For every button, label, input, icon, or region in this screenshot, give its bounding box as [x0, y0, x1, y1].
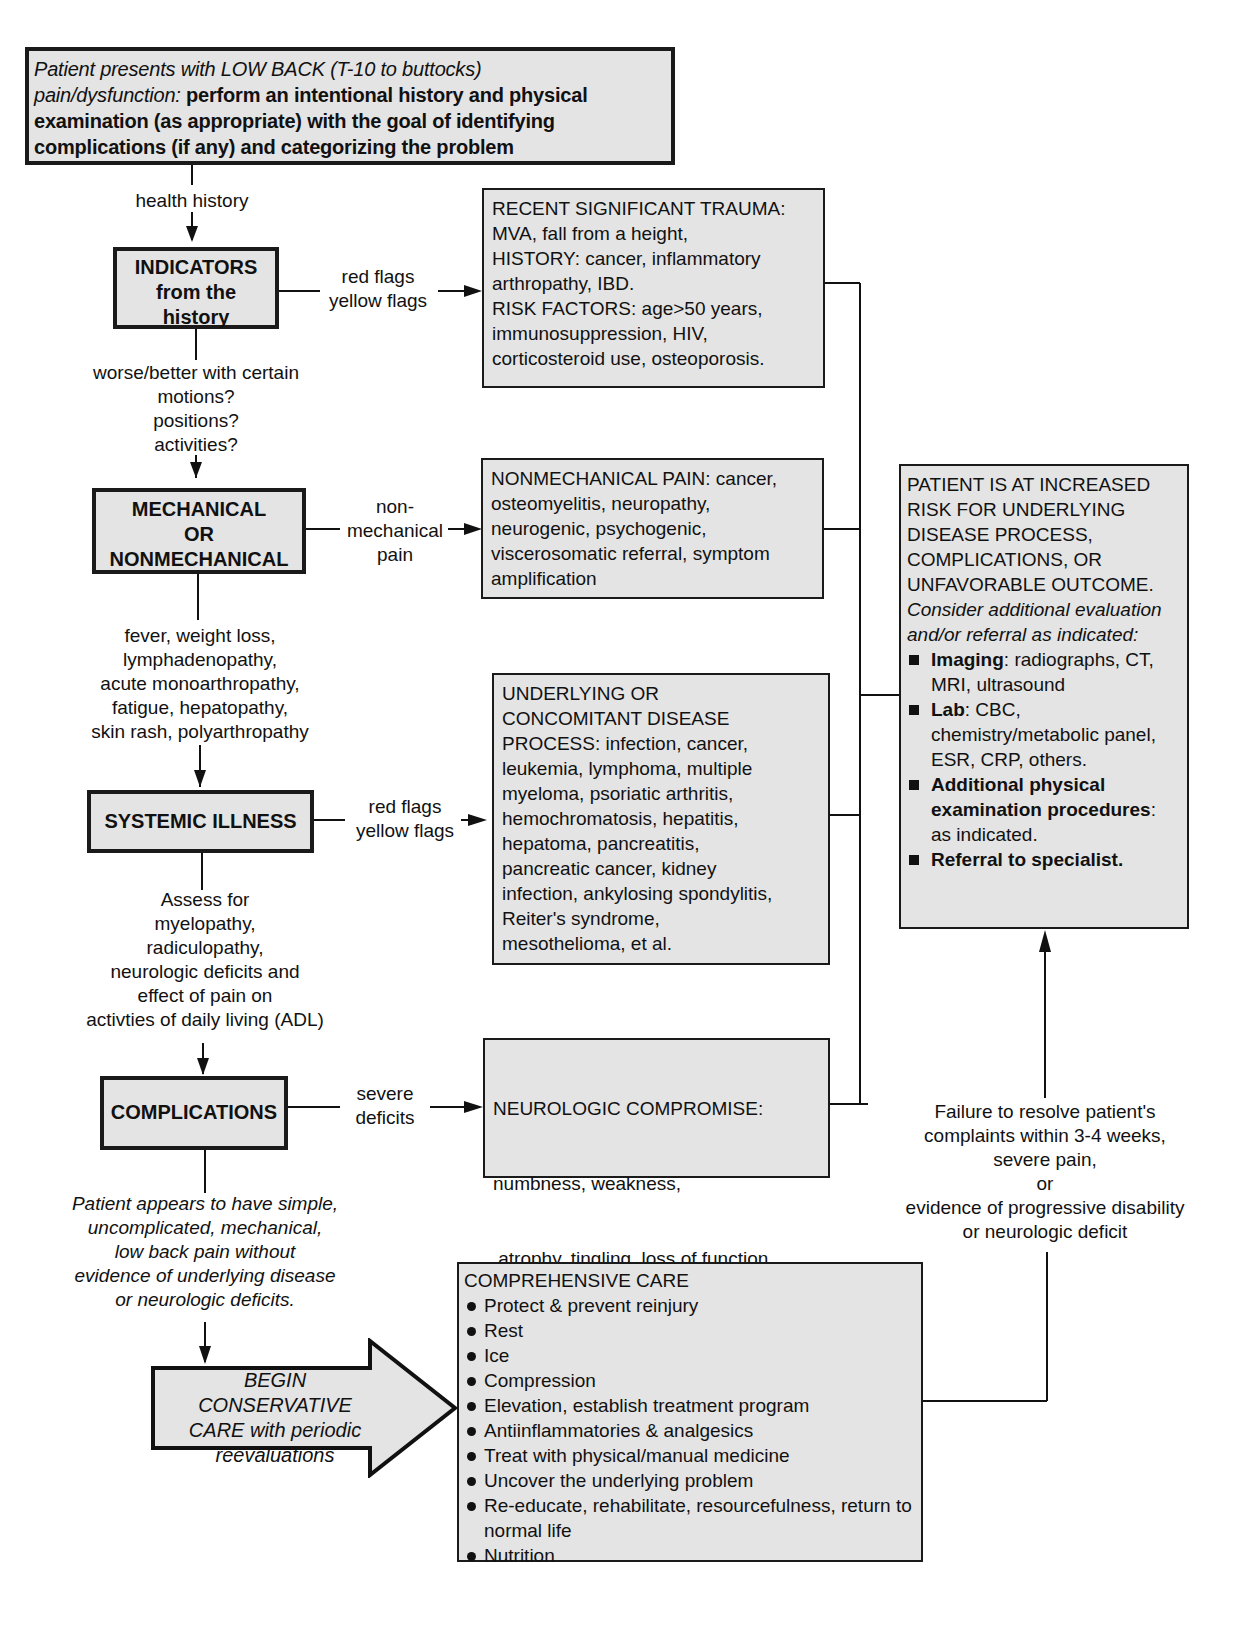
failure-line: or [880, 1172, 1210, 1196]
neuro-line: NEUROLOGIC COMPROMISE: [493, 1096, 820, 1121]
edge-label-line: red flags [316, 265, 440, 289]
risk-item-physical-exam: Additional physical examination procedur… [907, 772, 1181, 847]
nonmech-line: viscerosomatic referral, symptom [491, 541, 814, 566]
label-symptoms-2: lymphadenopathy, [70, 648, 330, 672]
conservative-line-2: CONSERVATIVE [175, 1393, 375, 1418]
care-item: Compression [464, 1368, 916, 1393]
trauma-line: MVA, fall from a height, [492, 221, 815, 246]
risk-list: Imaging: radiographs, CT, MRI, ultrasoun… [907, 647, 1181, 872]
label-assess-1: Assess for [65, 888, 345, 912]
label-simple-2: uncomplicated, mechanical, [55, 1216, 355, 1240]
edge-label-line: severe [340, 1082, 430, 1106]
care-item: Treat with physical/manual medicine [464, 1443, 916, 1468]
edge-label-line: non- [340, 495, 450, 519]
label-simple-1: Patient appears to have simple, [55, 1192, 355, 1216]
edge-label-severe-deficits: severe deficits [340, 1082, 430, 1130]
label-symptoms-5: skin rash, polyarthropathy [70, 720, 330, 744]
risk-caps-line: PATIENT IS AT INCREASED [907, 472, 1181, 497]
conservative-care-text: BEGIN CONSERVATIVE CARE with periodic re… [175, 1368, 375, 1468]
indicators-line-3: history [117, 305, 275, 330]
underlying-line: hemochromatosis, hepatitis, [502, 806, 820, 831]
mechanical-box: MECHANICAL OR NONMECHANICAL [92, 488, 306, 574]
care-item: Re-educate, rehabilitate, resourcefulnes… [464, 1493, 916, 1543]
conservative-line-1: BEGIN [175, 1368, 375, 1393]
start-italic-1: Patient presents with LOW BACK (T-10 to … [34, 58, 481, 80]
increased-risk-box: PATIENT IS AT INCREASED RISK FOR UNDERLY… [899, 464, 1189, 929]
label-simple-5: or neurologic deficits. [55, 1288, 355, 1312]
label-assess-2: myelopathy, [65, 912, 345, 936]
edge-label-line: mechanical [340, 519, 450, 543]
trauma-line: arthropathy, IBD. [492, 271, 815, 296]
nonmech-line: amplification [491, 566, 814, 591]
nonmech-line: neurogenic, psychogenic, [491, 516, 814, 541]
risk-italic-note: Consider additional evaluation and/or re… [907, 597, 1181, 647]
label-assess-6: activties of daily living (ADL) [65, 1008, 345, 1032]
label-health-history: health history [112, 189, 272, 213]
label-assess-5: effect of pain on [65, 984, 345, 1008]
systemic-illness-title: SYSTEMIC ILLNESS [91, 809, 310, 834]
risk-caps-line: COMPLICATIONS, OR [907, 547, 1181, 572]
conservative-line-3: CARE with periodic [175, 1418, 375, 1443]
systemic-illness-box: SYSTEMIC ILLNESS [87, 790, 314, 853]
underlying-line: pancreatic cancer, kidney [502, 856, 820, 881]
risk-item-bold: Imaging [931, 649, 1004, 670]
label-simple-pain: Patient appears to have simple, uncompli… [55, 1192, 355, 1312]
underlying-line: hepatoma, pancreatitis, [502, 831, 820, 856]
failure-line: Failure to resolve patient's [880, 1100, 1210, 1124]
edge-label-line: pain [340, 543, 450, 567]
label-simple-3: low back pain without [55, 1240, 355, 1264]
underlying-line: mesothelioma, et al. [502, 931, 820, 956]
failure-line: or neurologic deficit [880, 1220, 1210, 1244]
care-item: Antiinflammatories & analgesics [464, 1418, 916, 1443]
nonmechanical-pain-box: NONMECHANICAL PAIN: cancer, osteomyeliti… [481, 458, 824, 599]
underlying-line: UNDERLYING OR [502, 681, 820, 706]
underlying-line: CONCOMITANT DISEASE [502, 706, 820, 731]
risk-item-lab: Lab: CBC, chemistry/metabolic panel, ESR… [907, 697, 1181, 772]
nonmech-line: osteomyelitis, neuropathy, [491, 491, 814, 516]
label-motions-4: activities? [66, 433, 326, 457]
conservative-line-4: reevaluations [175, 1443, 375, 1468]
trauma-line: corticosteroid use, osteoporosis. [492, 346, 815, 371]
label-assess: Assess for myelopathy, radiculopathy, ne… [65, 888, 345, 1032]
label-motions-1: worse/better with certain [66, 361, 326, 385]
failure-line: complaints within 3-4 weeks, [880, 1124, 1210, 1148]
label-assess-3: radiculopathy, [65, 936, 345, 960]
start-italic-2: pain/dysfunction: [34, 84, 181, 106]
care-item: Nutrition [464, 1543, 916, 1568]
risk-item-bold: Additional physical examination procedur… [931, 774, 1151, 820]
edge-label-line: yellow flags [343, 819, 467, 843]
underlying-line: leukemia, lymphoma, multiple [502, 756, 820, 781]
underlying-line: PROCESS: infection, cancer, [502, 731, 820, 756]
label-simple-4: evidence of underlying disease [55, 1264, 355, 1288]
label-symptoms-3: acute monoarthropathy, [70, 672, 330, 696]
risk-caps-line: RISK FOR UNDERLYING [907, 497, 1181, 522]
label-motions: worse/better with certain motions? posit… [66, 361, 326, 457]
indicators-box: INDICATORS from the history [113, 247, 279, 329]
risk-item-bold: Lab [931, 699, 965, 720]
care-item: Elevation, establish treatment program [464, 1393, 916, 1418]
indicators-line-2: from the [117, 280, 275, 305]
label-motions-3: positions? [66, 409, 326, 433]
complications-title: COMPLICATIONS [104, 1100, 284, 1125]
trauma-line: immunosuppression, HIV, [492, 321, 815, 346]
risk-item-imaging: Imaging: radiographs, CT, MRI, ultrasoun… [907, 647, 1181, 697]
failure-line: evidence of progressive disability [880, 1196, 1210, 1220]
underlying-line: myeloma, psoriatic arthritis, [502, 781, 820, 806]
trauma-line: RISK FACTORS: age>50 years, [492, 296, 815, 321]
risk-item-bold: Referral to specialist. [931, 849, 1123, 870]
underlying-line: infection, ankylosing spondylitis, [502, 881, 820, 906]
risk-item-rest: : CBC, chemistry/metabolic panel, ESR, C… [931, 699, 1156, 770]
label-assess-4: neurologic deficits and [65, 960, 345, 984]
nonmech-line: NONMECHANICAL PAIN: cancer, [491, 466, 814, 491]
care-item: Rest [464, 1318, 916, 1343]
trauma-line: HISTORY: cancer, inflammatory [492, 246, 815, 271]
label-failure-to-resolve: Failure to resolve patient's complaints … [880, 1100, 1210, 1244]
failure-line: severe pain, [880, 1148, 1210, 1172]
start-box-text: Patient presents with LOW BACK (T-10 to … [34, 56, 674, 160]
label-symptoms: fever, weight loss, lymphadenopathy, acu… [70, 624, 330, 744]
care-item: Uncover the underlying problem [464, 1468, 916, 1493]
complications-box: COMPLICATIONS [100, 1076, 288, 1150]
indicators-line-1: INDICATORS [117, 255, 275, 280]
edge-label-red-yellow-flags-2: red flags yellow flags [343, 795, 467, 843]
care-item: Ice [464, 1343, 916, 1368]
